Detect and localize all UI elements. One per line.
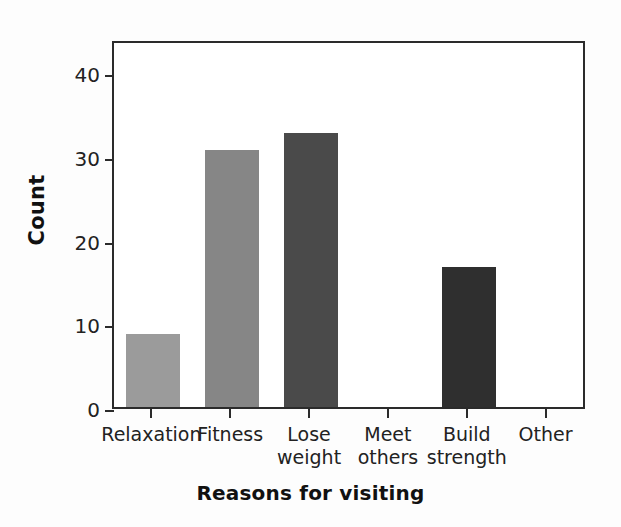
- x-axis-title: Reasons for visiting: [0, 481, 621, 505]
- y-tick-mark: [105, 326, 114, 328]
- x-tick-mark: [150, 409, 152, 418]
- y-tick-label: 40: [40, 63, 100, 87]
- x-tick-mark: [308, 409, 310, 418]
- bar-build-strength: [442, 267, 496, 407]
- bar-lose-weight: [284, 133, 338, 407]
- x-tick-label: Other: [486, 423, 606, 446]
- bar-fitness: [205, 150, 259, 407]
- x-tick-mark: [387, 409, 389, 418]
- y-tick-label: 20: [40, 231, 100, 255]
- y-tick-label: 0: [40, 398, 100, 422]
- y-tick-mark: [105, 243, 114, 245]
- bar-relaxation: [126, 334, 180, 407]
- y-tick-label: 10: [40, 314, 100, 338]
- x-tick-mark: [545, 409, 547, 418]
- y-tick-label: 30: [40, 147, 100, 171]
- y-tick-mark: [105, 75, 114, 77]
- y-tick-mark: [105, 410, 114, 412]
- y-tick-mark: [105, 159, 114, 161]
- plot-area: 010203040: [112, 41, 585, 409]
- x-tick-mark: [229, 409, 231, 418]
- bar-chart-figure: Count 010203040 RelaxationFitnessLose we…: [0, 0, 621, 527]
- x-tick-mark: [466, 409, 468, 418]
